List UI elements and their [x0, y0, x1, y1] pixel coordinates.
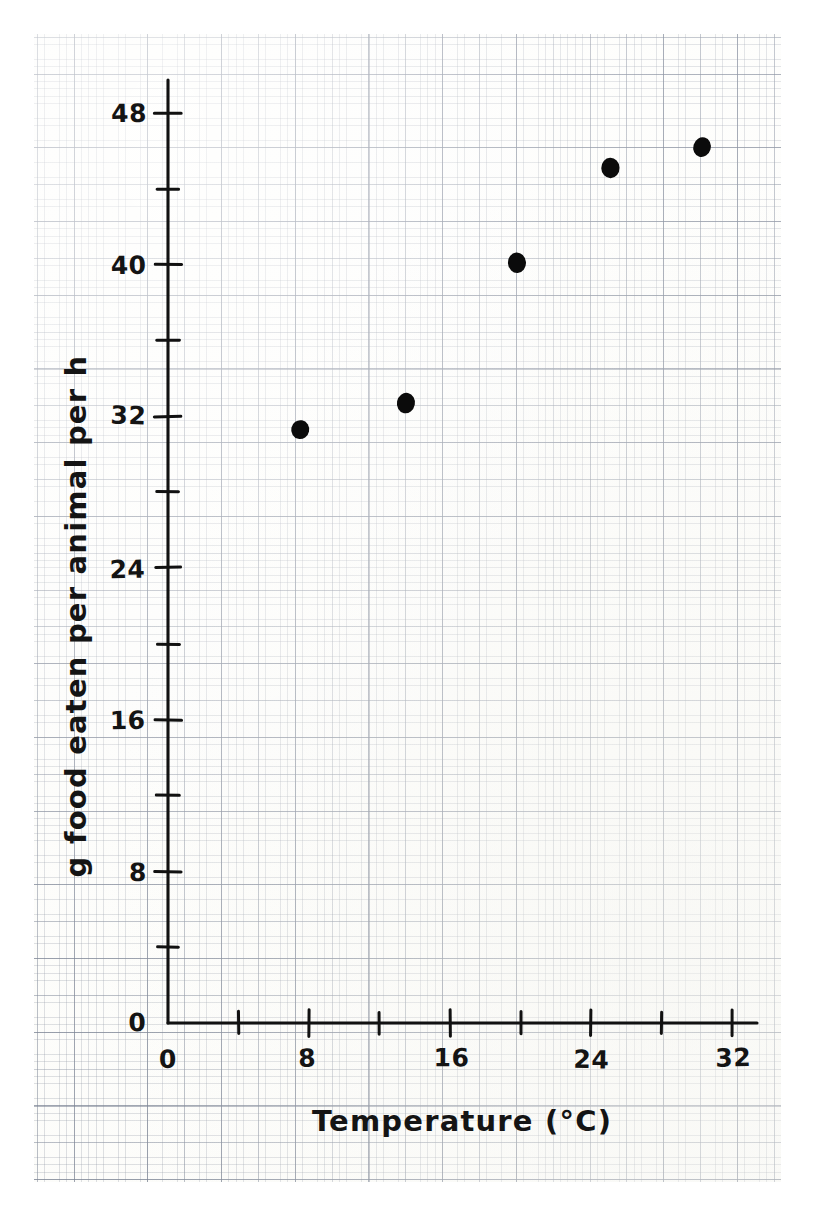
y-tick-label: 32: [110, 401, 147, 431]
x-tick-label: 16: [434, 1043, 470, 1072]
y-tick-major: [154, 416, 180, 417]
data-point: [290, 419, 311, 441]
y-tick-major: [155, 871, 181, 872]
y-tick-label: 16: [110, 706, 146, 736]
x-tick-label: 8: [298, 1043, 317, 1073]
x-axis-title: Temperature (°C): [312, 1104, 612, 1138]
x-axis-tick-labels: 08162432: [159, 1043, 752, 1075]
y-axis-tick-labels: 081624324048: [109, 99, 147, 1038]
y-tick-label: 40: [110, 251, 146, 281]
y-tick-label: 0: [128, 1008, 146, 1037]
x-tick-label: 24: [573, 1045, 609, 1075]
data-point: [395, 391, 417, 415]
y-tick-label: 48: [111, 99, 147, 129]
data-point: [601, 158, 620, 179]
x-tick-label: 0: [159, 1045, 177, 1074]
y-tick-label: 8: [129, 858, 147, 887]
data-points-layer: [290, 135, 714, 441]
data-point: [691, 135, 713, 159]
y-axis-title: g food eaten per animal per h: [59, 355, 93, 878]
y-tick-label: 24: [109, 555, 145, 585]
x-tick-label: 32: [715, 1043, 751, 1073]
data-point: [507, 252, 527, 274]
scatter-plot: 081624324048 08162432 Temperature (°C) g…: [0, 0, 813, 1220]
